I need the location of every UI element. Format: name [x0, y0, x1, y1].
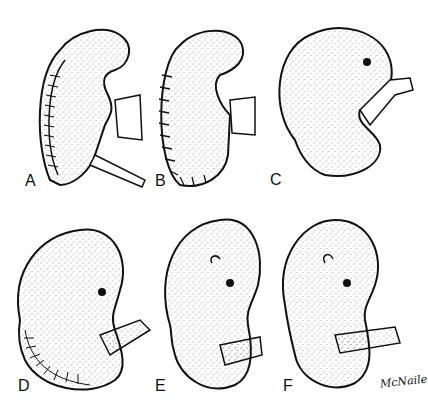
- embryo-panel-c: C: [265, 10, 420, 190]
- panel-label-a: A: [25, 173, 36, 189]
- panel-label-c: C: [270, 172, 282, 188]
- embryo-c-illustration: [265, 10, 420, 190]
- embryo-panel-e: E: [150, 215, 280, 400]
- embryo-panel-b: B: [150, 15, 265, 190]
- eye-dot: [98, 288, 106, 296]
- panel-label-b: B: [155, 173, 166, 189]
- eye-dot: [363, 58, 371, 66]
- panel-label-f: F: [283, 378, 293, 394]
- embryo-panel-d: D: [10, 220, 160, 400]
- embryo-e-illustration: [150, 215, 280, 400]
- embryo-a-illustration: [20, 15, 150, 190]
- panel-label-d: D: [18, 378, 30, 394]
- panel-label-e: E: [155, 378, 166, 394]
- embryo-panel-a: A: [20, 15, 150, 190]
- eye-dot: [226, 279, 234, 287]
- embryo-f-illustration: [275, 215, 425, 400]
- eye-dot: [343, 279, 351, 287]
- embryo-d-illustration: [10, 220, 160, 400]
- embryo-b-illustration: [150, 15, 265, 190]
- embryo-panel-f: F McNaile: [275, 215, 425, 400]
